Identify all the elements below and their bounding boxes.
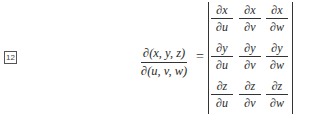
entry-numerator: ∂y [216, 42, 227, 56]
entry-denominator: ∂v [244, 95, 255, 109]
entry-numerator: ∂x [244, 4, 255, 18]
determinant-left-bar [208, 2, 209, 114]
matrix-entry-dx-dw: ∂x ∂w [266, 4, 288, 33]
entry-denominator: ∂u [216, 57, 228, 71]
entry-numerator: ∂y [244, 42, 255, 56]
entry-numerator: ∂z [217, 80, 228, 94]
entry-numerator: ∂z [245, 80, 256, 94]
entry-numerator: ∂x [216, 4, 227, 18]
entry-denominator: ∂w [270, 95, 284, 109]
entry-denominator: ∂u [216, 95, 228, 109]
matrix-entry-dx-dv: ∂x ∂v [239, 4, 261, 33]
lhs-numerator: ∂(x, y, z) [143, 47, 185, 62]
entry-numerator: ∂y [271, 42, 282, 56]
entry-denominator: ∂w [270, 57, 284, 71]
lhs-denominator: ∂(u, v, w) [141, 63, 187, 78]
determinant-right-bar [292, 2, 293, 114]
matrix-entry-dx-du: ∂x ∂u [211, 4, 233, 33]
entry-denominator: ∂u [216, 19, 228, 33]
entry-denominator: ∂v [244, 57, 255, 71]
entry-denominator: ∂w [270, 19, 284, 33]
entry-numerator: ∂x [271, 4, 282, 18]
jacobian-notation-fraction: ∂(x, y, z) ∂(u, v, w) [141, 47, 187, 77]
matrix-entry-dz-dv: ∂z ∂v [239, 80, 261, 109]
equation-number-box: 12 [4, 51, 17, 64]
entry-numerator: ∂z [272, 80, 283, 94]
equals-sign: = [196, 50, 204, 64]
matrix-entry-dy-dv: ∂y ∂v [239, 42, 261, 71]
matrix-entry-dz-dw: ∂z ∂w [266, 80, 288, 109]
entry-denominator: ∂v [244, 19, 255, 33]
matrix-entry-dy-du: ∂y ∂u [211, 42, 233, 71]
matrix-entry-dy-dw: ∂y ∂w [266, 42, 288, 71]
matrix-entry-dz-du: ∂z ∂u [211, 80, 233, 109]
